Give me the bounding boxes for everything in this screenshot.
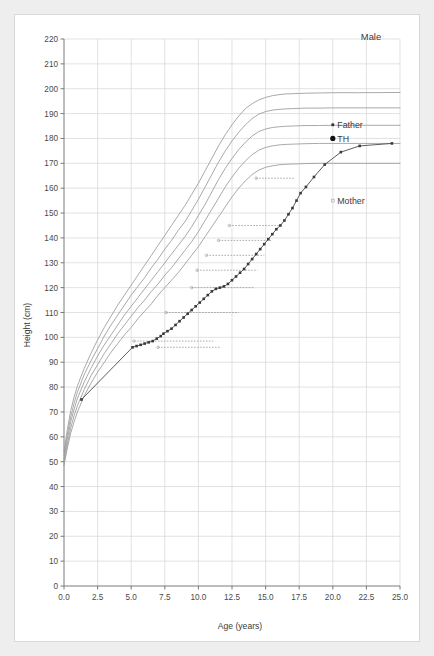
patient-data-point[interactable] bbox=[291, 207, 294, 210]
y-tick-label: 110 bbox=[45, 309, 58, 318]
mother-height-label: Mother bbox=[337, 196, 364, 206]
patient-data-point[interactable] bbox=[259, 248, 262, 251]
patient-data-point[interactable] bbox=[283, 219, 286, 222]
y-tick-label: 190 bbox=[44, 110, 58, 119]
y-tick-label: 150 bbox=[44, 209, 58, 218]
y-tick-label: 170 bbox=[44, 159, 58, 168]
patient-data-point[interactable] bbox=[239, 271, 242, 274]
y-tick-label: 20 bbox=[49, 532, 59, 541]
patient-data-point[interactable] bbox=[358, 145, 361, 148]
patient-data-point[interactable] bbox=[174, 324, 177, 327]
x-tick-label: 5.0 bbox=[126, 593, 138, 602]
y-tick-label: 210 bbox=[44, 60, 58, 69]
target-height-label: TH bbox=[337, 134, 349, 144]
patient-data-point[interactable] bbox=[251, 258, 254, 261]
patient-data-point[interactable] bbox=[143, 342, 146, 345]
x-tick-label: 22.5 bbox=[358, 593, 374, 602]
y-tick-label: 180 bbox=[44, 134, 58, 143]
patient-data-point[interactable] bbox=[255, 253, 258, 256]
panel-background bbox=[15, 15, 419, 641]
patient-data-point[interactable] bbox=[166, 330, 169, 333]
growth-chart-svg[interactable]: 0102030405060708090100110120130140150160… bbox=[15, 15, 419, 641]
y-tick-label: 60 bbox=[49, 433, 59, 442]
y-tick-label: 200 bbox=[44, 85, 58, 94]
patient-data-point[interactable] bbox=[223, 285, 226, 288]
y-tick-label: 0 bbox=[53, 582, 58, 591]
patient-data-point[interactable] bbox=[275, 228, 278, 231]
y-tick-label: 220 bbox=[44, 35, 58, 44]
y-tick-label: 40 bbox=[49, 483, 59, 492]
patient-data-point[interactable] bbox=[198, 301, 201, 304]
y-tick-label: 30 bbox=[49, 507, 59, 516]
x-tick-label: 25.0 bbox=[392, 593, 408, 602]
patient-data-point[interactable] bbox=[162, 332, 165, 335]
patient-data-point[interactable] bbox=[135, 345, 138, 348]
patient-data-point[interactable] bbox=[131, 346, 134, 349]
x-tick-label: 17.5 bbox=[291, 593, 307, 602]
patient-data-point[interactable] bbox=[235, 275, 238, 278]
y-axis-title: Height (cm) bbox=[22, 303, 32, 348]
patient-data-point[interactable] bbox=[155, 337, 158, 340]
patient-data-point[interactable] bbox=[313, 176, 316, 179]
x-tick-label: 2.5 bbox=[92, 593, 104, 602]
patient-data-point[interactable] bbox=[170, 327, 173, 330]
patient-data-point[interactable] bbox=[139, 344, 142, 347]
y-tick-label: 140 bbox=[44, 234, 58, 243]
patient-data-point[interactable] bbox=[340, 151, 343, 154]
y-tick-label: 10 bbox=[49, 557, 59, 566]
patient-data-point[interactable] bbox=[263, 243, 266, 246]
y-tick-label: 50 bbox=[49, 458, 59, 467]
patient-data-point[interactable] bbox=[194, 305, 197, 308]
patient-data-point[interactable] bbox=[159, 335, 162, 338]
patient-data-point[interactable] bbox=[271, 233, 274, 236]
y-tick-label: 130 bbox=[44, 259, 58, 268]
patient-data-point[interactable] bbox=[190, 309, 193, 312]
patient-data-point[interactable] bbox=[323, 163, 326, 166]
sex-title-label: Male bbox=[361, 31, 381, 42]
y-tick-label: 100 bbox=[44, 333, 58, 342]
x-tick-label: 12.5 bbox=[224, 593, 240, 602]
patient-data-point[interactable] bbox=[211, 290, 214, 293]
patient-data-point[interactable] bbox=[305, 186, 308, 189]
father-height-label: Father bbox=[337, 120, 362, 130]
x-tick-label: 15.0 bbox=[258, 593, 274, 602]
patient-data-point[interactable] bbox=[243, 268, 246, 271]
figure-root: 0102030405060708090100110120130140150160… bbox=[0, 0, 434, 656]
patient-data-point[interactable] bbox=[247, 263, 250, 266]
y-tick-label: 70 bbox=[49, 408, 59, 417]
patient-data-point[interactable] bbox=[299, 192, 302, 195]
y-tick-label: 90 bbox=[49, 358, 59, 367]
patient-data-point[interactable] bbox=[151, 340, 154, 343]
chart-card: 0102030405060708090100110120130140150160… bbox=[14, 14, 420, 642]
patient-data-point[interactable] bbox=[178, 320, 181, 323]
patient-data-point[interactable] bbox=[219, 286, 222, 289]
patient-data-point[interactable] bbox=[186, 312, 189, 315]
target-height-marker bbox=[330, 136, 335, 141]
y-tick-label: 160 bbox=[44, 184, 58, 193]
x-tick-label: 7.5 bbox=[159, 593, 171, 602]
patient-data-point[interactable] bbox=[227, 283, 230, 286]
x-tick-label: 20.0 bbox=[325, 593, 341, 602]
y-tick-label: 120 bbox=[44, 284, 58, 293]
father-height-marker bbox=[331, 123, 334, 126]
x-tick-label: 0.0 bbox=[58, 593, 70, 602]
patient-data-point[interactable] bbox=[207, 294, 210, 297]
y-tick-label: 80 bbox=[49, 383, 59, 392]
patient-data-point[interactable] bbox=[147, 341, 150, 344]
patient-data-point[interactable] bbox=[182, 316, 185, 319]
patient-data-point[interactable] bbox=[391, 142, 394, 145]
patient-data-point[interactable] bbox=[295, 199, 298, 202]
patient-data-point[interactable] bbox=[202, 298, 205, 301]
patient-data-point[interactable] bbox=[279, 224, 282, 227]
patient-data-point[interactable] bbox=[231, 279, 234, 282]
patient-data-point[interactable] bbox=[267, 238, 270, 241]
patient-data-point[interactable] bbox=[215, 288, 218, 291]
x-tick-label: 10.0 bbox=[190, 593, 206, 602]
patient-data-point[interactable] bbox=[80, 398, 83, 401]
x-axis-title: Age (years) bbox=[218, 621, 263, 631]
patient-data-point[interactable] bbox=[287, 213, 290, 216]
